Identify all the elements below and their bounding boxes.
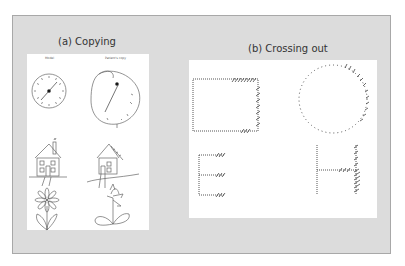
patient-flower-icon (95, 184, 129, 225)
crossing-out-card (189, 60, 377, 218)
patient-house-icon (87, 144, 139, 188)
copying-drawings (27, 54, 149, 230)
patient-clock-icon (91, 71, 140, 128)
dotted-letter-h-icon (317, 145, 356, 195)
model-clock-icon (32, 74, 66, 108)
model-house-icon (29, 138, 67, 186)
dotted-rectangle-icon (193, 79, 258, 131)
panel-a-title: (a) Copying (58, 36, 116, 47)
panel-b-title: (b) Crossing out (248, 43, 328, 54)
dotted-circle-icon (299, 65, 367, 133)
copying-card: Model Patient's copy (27, 54, 149, 230)
crossing-out-drawings (189, 60, 377, 218)
model-flower-icon (35, 188, 59, 230)
